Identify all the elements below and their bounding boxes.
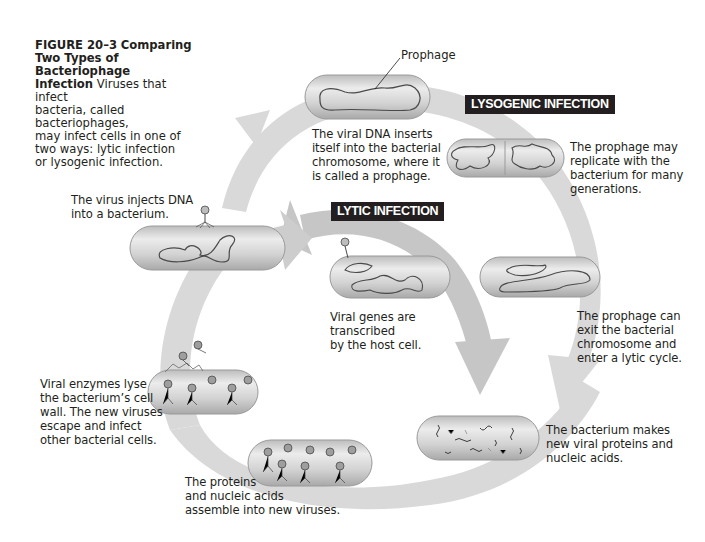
step-inject-text: The virus injects DNA into a bacterium. bbox=[71, 193, 193, 221]
figure-title-line2: Two Types of Bacteriophage bbox=[35, 51, 130, 78]
text-line: other bacterial cells. bbox=[40, 433, 163, 447]
text-line: The virus injects DNA bbox=[71, 193, 193, 207]
step-replicate-text: The prophage may replicate with the bact… bbox=[570, 140, 683, 196]
text-line: new viral proteins and bbox=[546, 437, 673, 451]
text-line: Viral enzymes lyse bbox=[40, 377, 163, 391]
cell-prophage-inserted bbox=[305, 58, 430, 119]
text-line: The bacterium makes bbox=[546, 423, 673, 437]
text-line: escape and infect bbox=[40, 419, 163, 433]
figure-desc-line5: or lysogenic infection. bbox=[35, 155, 163, 169]
figure-desc-line3: may infect cells in one of bbox=[35, 129, 181, 143]
text-line: chromosome, where it bbox=[312, 155, 441, 169]
text-line: by the host cell. bbox=[330, 338, 421, 352]
text-line: is called a prophage. bbox=[312, 169, 441, 183]
text-line: The prophage can bbox=[577, 309, 682, 323]
figure-number: FIGURE 20–3 bbox=[35, 38, 117, 52]
text-line: transcribed bbox=[330, 324, 421, 338]
figure-desc-line2: bacteria, called bacteriophages, bbox=[35, 103, 129, 130]
text-line: The prophage may bbox=[570, 140, 683, 154]
cell-prophage-exiting bbox=[480, 257, 600, 297]
step-transcribe-text: Viral genes are transcribed by the host … bbox=[330, 310, 421, 352]
cell-making-proteins bbox=[417, 416, 539, 460]
figure-desc-line4: two ways: lytic infection bbox=[35, 142, 175, 156]
text-line: the bacterium’s cell bbox=[40, 391, 163, 405]
phage-icon bbox=[341, 238, 349, 258]
prophage-label: Prophage bbox=[401, 48, 456, 62]
text-line: The viral DNA inserts bbox=[312, 127, 441, 141]
text-line: chromosome and bbox=[577, 337, 682, 351]
lysogenic-infection-label: LYSOGENIC INFECTION bbox=[465, 95, 615, 114]
text-line: The proteins bbox=[185, 475, 340, 489]
figure-title-line1: Comparing bbox=[121, 38, 192, 52]
text-line: into a bacterium. bbox=[71, 207, 193, 221]
step-insert-text: The viral DNA inserts itself into the ba… bbox=[312, 127, 441, 183]
figure-caption: FIGURE 20–3 Comparing Two Types of Bacte… bbox=[35, 39, 195, 169]
text-line: enter a lytic cycle. bbox=[577, 351, 682, 365]
text-line: exit the bacterial bbox=[577, 323, 682, 337]
cell-dividing bbox=[447, 139, 564, 177]
text-line: itself into the bacterial bbox=[312, 141, 441, 155]
text-line: nucleic acids. bbox=[546, 451, 673, 465]
step-make-text: The bacterium makes new viral proteins a… bbox=[546, 423, 673, 465]
lytic-infection-label: LYTIC INFECTION bbox=[331, 202, 444, 221]
text-line: replicate with the bbox=[570, 154, 683, 168]
text-line: wall. The new viruses bbox=[40, 405, 163, 419]
figure-title-line3: Infection bbox=[35, 77, 93, 91]
text-line: and nucleic acids bbox=[185, 489, 340, 503]
step-exit-text: The prophage can exit the bacterial chro… bbox=[577, 309, 682, 365]
text-line: Viral genes are bbox=[330, 310, 421, 324]
step-lyse-text: Viral enzymes lyse the bacterium’s cell … bbox=[40, 377, 163, 447]
phage-icon bbox=[196, 206, 214, 228]
text-line: assemble into new viruses. bbox=[185, 503, 340, 517]
text-line: bacterium for many bbox=[570, 168, 683, 182]
step-assemble-text: The proteins and nucleic acids assemble … bbox=[185, 475, 340, 517]
text-line: generations. bbox=[570, 182, 683, 196]
bacteriophage-infection-diagram: FIGURE 20–3 Comparing Two Types of Bacte… bbox=[0, 0, 705, 542]
